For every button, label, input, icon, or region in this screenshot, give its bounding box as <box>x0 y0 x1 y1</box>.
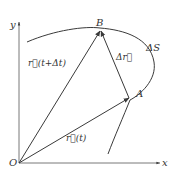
vector-r-t <box>19 98 129 163</box>
x-axis-label: x <box>162 157 168 168</box>
arc-delta-s-label: ΔS <box>145 42 160 53</box>
diagram-canvas: y x O B A ΔS Δr⃗ r⃗(t+Δt) r⃗(t) <box>0 0 174 182</box>
vector-r-t-dt <box>19 31 100 163</box>
vector-delta-r <box>101 31 129 98</box>
delta-r-label: Δr⃗ <box>115 52 132 62</box>
origin-label: O <box>9 157 17 168</box>
r-t-dt-label: r⃗(t+Δt) <box>28 58 66 68</box>
point-b-label: B <box>95 17 103 28</box>
r-t-label: r⃗(t) <box>66 133 87 143</box>
point-a-label: A <box>135 88 143 99</box>
y-axis-label: y <box>9 19 16 30</box>
